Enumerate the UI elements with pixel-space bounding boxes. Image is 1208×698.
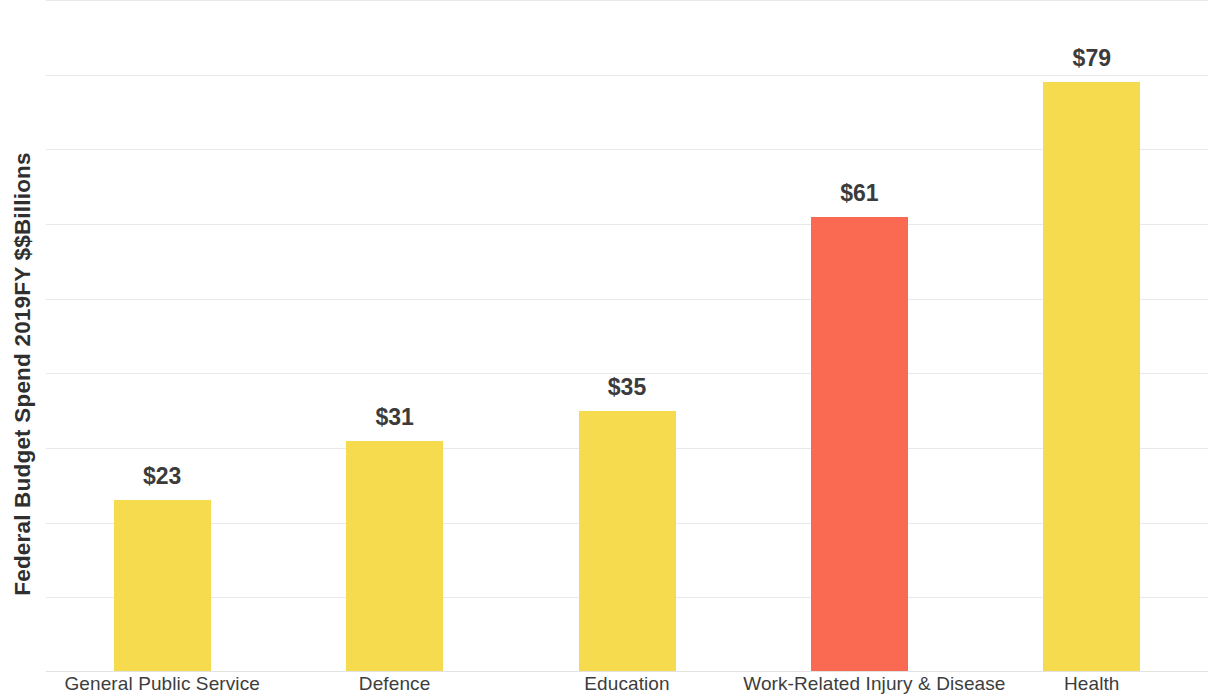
bar[interactable] <box>811 217 908 672</box>
gridline <box>46 0 1208 1</box>
category-label: Defence <box>278 673 510 695</box>
bar-value-label: $79 <box>1022 45 1162 72</box>
bar[interactable] <box>579 411 676 672</box>
gridline <box>46 75 1208 76</box>
category-label: Health <box>976 673 1208 695</box>
bar-value-label: $31 <box>325 404 465 431</box>
y-axis-title: Federal Budget Spend 2019FY $$Billions <box>0 0 46 698</box>
x-axis-baseline <box>46 671 1208 672</box>
gridline <box>46 149 1208 150</box>
bar[interactable] <box>346 441 443 672</box>
category-label: Education <box>511 673 743 695</box>
bar[interactable] <box>114 500 211 672</box>
category-label: General Public Service <box>46 673 278 695</box>
bar-chart: Federal Budget Spend 2019FY $$Billions $… <box>0 0 1208 698</box>
plot-area: $23$31$35$61$79 <box>46 0 1208 672</box>
bar[interactable] <box>1043 82 1140 672</box>
bar-value-label: $61 <box>789 180 929 207</box>
bar-value-label: $35 <box>557 374 697 401</box>
category-label: Work-Related Injury & Disease <box>743 673 975 695</box>
y-axis-title-text: Federal Budget Spend 2019FY $$Billions <box>10 152 36 596</box>
gridline <box>46 224 1208 225</box>
gridline <box>46 299 1208 300</box>
bar-value-label: $23 <box>92 463 232 490</box>
category-axis: General Public ServiceDefenceEducationWo… <box>46 673 1208 698</box>
